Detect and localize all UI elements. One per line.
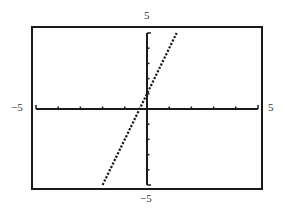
x-max-label: 5 [268, 102, 274, 113]
x-min-label: −5 [11, 102, 23, 113]
y-max-label: 5 [144, 10, 150, 21]
graph-canvas [0, 0, 285, 208]
y-min-label: −5 [140, 193, 152, 204]
